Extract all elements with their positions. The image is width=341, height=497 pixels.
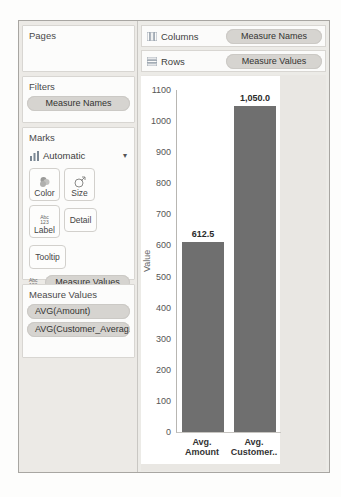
marks-card: Marks Automatic ▾ <box>22 127 135 280</box>
screenshot: Pages Filters Measure Names Marks <box>0 0 341 497</box>
rows-icon <box>147 57 157 66</box>
bar-mark-1[interactable] <box>234 106 276 432</box>
rows-label: Rows <box>161 56 185 67</box>
worksheet-area: Value 0100200300400500600700800900100011… <box>141 75 326 471</box>
measure-pill-avg-amount[interactable]: AVG(Amount) <box>27 304 130 319</box>
x-category-label: Avg.Customer.. <box>228 437 280 457</box>
columns-icon <box>147 32 157 41</box>
y-axis-ticks: 010020030040050060070080090010001100 <box>141 76 173 464</box>
bar-chart-icon <box>30 151 39 161</box>
columns-label: Columns <box>161 31 199 42</box>
y-tick-label: 100 <box>141 396 171 406</box>
color-button[interactable]: Color <box>29 168 60 201</box>
rows-shelf[interactable]: Rows Measure Values <box>141 50 326 72</box>
filter-pill-measure-names[interactable]: Measure Names <box>27 96 130 111</box>
tooltip-button-label: Tooltip <box>35 252 60 262</box>
tableau-window: Pages Filters Measure Names Marks <box>18 20 330 473</box>
x-category-label: Avg.Amount <box>176 437 228 457</box>
x-axis-labels: Avg.AmountAvg.Customer.. <box>176 437 280 461</box>
sidebar: Pages Filters Measure Names Marks <box>19 21 138 472</box>
columns-pill-measure-names[interactable]: Measure Names <box>226 29 322 44</box>
y-tick-label: 700 <box>141 209 171 219</box>
y-tick-label: 200 <box>141 365 171 375</box>
bar-value-label: 1,050.0 <box>229 93 281 103</box>
detail-button[interactable]: Detail <box>64 208 97 232</box>
detail-button-label: Detail <box>70 215 92 225</box>
size-button-label: Size <box>71 188 88 198</box>
y-tick-label: 300 <box>141 334 171 344</box>
mark-type-dropdown[interactable]: Automatic ▾ <box>30 148 127 163</box>
chevron-down-icon: ▾ <box>123 151 127 160</box>
plot-pane: 612.51,050.0 <box>176 90 281 433</box>
y-tick-label: 400 <box>141 303 171 313</box>
filters-title: Filters <box>23 77 134 95</box>
color-icon <box>39 176 51 188</box>
marks-buttons: Color Size Abc <box>29 168 128 269</box>
y-tick-label: 1000 <box>141 116 171 126</box>
filters-shelf[interactable]: Filters Measure Names <box>22 76 135 123</box>
measure-pill-avg-customer[interactable]: AVG(Customer_Averag.. <box>27 322 130 337</box>
pages-shelf[interactable]: Pages <box>22 25 135 72</box>
y-tick-label: 600 <box>141 240 171 250</box>
label-button-label: Label <box>34 225 55 235</box>
y-tick-label: 900 <box>141 147 171 157</box>
y-tick-label: 0 <box>141 427 171 437</box>
bar-mark-0[interactable] <box>182 242 224 432</box>
columns-shelf[interactable]: Columns Measure Names <box>141 25 326 47</box>
y-tick-label: 1100 <box>141 85 171 95</box>
size-button[interactable]: Size <box>64 168 95 201</box>
measure-values-card: Measure Values AVG(Amount) AVG(Customer_… <box>22 284 135 358</box>
measure-values-title: Measure Values <box>23 285 134 303</box>
label-button[interactable]: Abc 123 Label <box>29 205 60 238</box>
y-tick-label: 500 <box>141 272 171 282</box>
mark-type-label: Automatic <box>43 150 85 161</box>
pages-title: Pages <box>23 26 134 44</box>
color-button-label: Color <box>34 188 54 198</box>
size-icon <box>74 176 86 188</box>
abc123-icon: Abc 123 <box>38 215 51 225</box>
chart-panel: Value 0100200300400500600700800900100011… <box>141 76 280 464</box>
bar-value-label: 612.5 <box>177 229 229 239</box>
marks-title: Marks <box>23 128 134 146</box>
y-tick-label: 800 <box>141 178 171 188</box>
tooltip-button[interactable]: Tooltip <box>29 245 66 269</box>
rows-pill-measure-values[interactable]: Measure Values <box>226 54 322 69</box>
